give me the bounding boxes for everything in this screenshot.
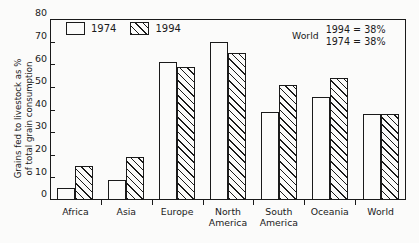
bar-1974	[210, 42, 228, 200]
world-annotation: World 1994 = 38% 1974 = 38%	[292, 24, 386, 47]
bar-1994	[381, 114, 399, 200]
x-tick-mark	[203, 200, 204, 205]
y-tick-value: 80	[35, 8, 50, 18]
x-tick-label: Oceania	[304, 207, 355, 218]
annotation-lines: 1994 = 38% 1974 = 38%	[326, 24, 386, 47]
legend: 1974 1994	[66, 22, 181, 35]
y-tick-mark	[50, 110, 55, 111]
bar-1974	[261, 112, 279, 200]
bar-1994	[177, 67, 195, 200]
y-tick-mark	[50, 64, 55, 65]
y-tick-value: 30	[35, 121, 50, 131]
y-tick-mark	[50, 87, 55, 88]
x-tick-mark	[304, 200, 305, 205]
y-tick-value: 20	[35, 144, 50, 154]
y-tick-value: 70	[35, 31, 50, 41]
y-tick-mark	[50, 155, 55, 156]
bar-1994	[279, 85, 297, 200]
bar-1994	[75, 166, 93, 200]
legend-swatch-1994	[130, 22, 149, 35]
y-tick-value: 60	[35, 54, 50, 64]
x-tick-mark	[101, 200, 102, 205]
bar-1974	[159, 62, 177, 200]
y-tick-value: 0	[41, 189, 50, 199]
y-tick-mark	[50, 132, 55, 133]
y-tick-mark	[50, 177, 55, 178]
bar-1994	[228, 53, 246, 200]
annotation-label: World	[292, 31, 319, 40]
legend-label-1994: 1994	[155, 24, 180, 34]
x-tick-label: North America	[203, 207, 254, 228]
legend-swatch-1974	[66, 22, 85, 35]
annotation-line-1974: 1974 = 38%	[326, 36, 386, 47]
y-tick-mark	[50, 42, 55, 43]
annotation-line-1994: 1994 = 38%	[326, 24, 386, 35]
x-tick-mark	[152, 200, 153, 205]
bar-chart: Grains fed to livestock as % of total gr…	[0, 0, 419, 243]
x-tick-mark	[253, 200, 254, 205]
bar-1974	[312, 97, 330, 200]
y-tick-value: 50	[35, 76, 50, 86]
x-axis: AfricaAsiaEuropeNorth AmericaSouth Ameri…	[50, 200, 406, 243]
x-tick-label: Asia	[101, 207, 152, 218]
bar-1994	[126, 157, 144, 200]
bar-group	[108, 19, 144, 200]
legend-item-1974: 1974	[66, 22, 116, 35]
x-tick-label: World	[355, 207, 406, 218]
y-axis: 01020304050607080	[0, 0, 50, 243]
bar-1974	[57, 188, 75, 200]
legend-label-1974: 1974	[91, 24, 116, 34]
y-tick-value: 10	[35, 167, 50, 177]
x-tick-mark	[355, 200, 356, 205]
bar-1974	[108, 180, 126, 200]
bar-group	[57, 19, 93, 200]
bar-1994	[330, 78, 348, 200]
x-tick-label: South America	[253, 207, 304, 228]
bar-group	[159, 19, 195, 200]
y-tick-value: 40	[35, 99, 50, 109]
bar-group	[210, 19, 246, 200]
x-tick-label: Africa	[50, 207, 101, 218]
bar-1974	[363, 114, 381, 200]
legend-item-1994: 1994	[130, 22, 180, 35]
x-tick-label: Europe	[152, 207, 203, 218]
